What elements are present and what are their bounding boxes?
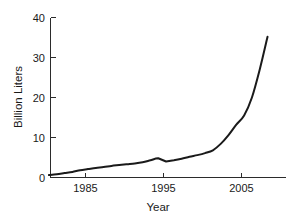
y-tick-labels: 0 10 20 30 40 bbox=[33, 12, 45, 184]
y-tick-marks bbox=[51, 18, 56, 178]
chart-figure: 0 10 20 30 40 1985 1995 2005 Year Billio… bbox=[0, 0, 294, 222]
x-tick-label-2005: 2005 bbox=[229, 182, 253, 194]
x-axis-title: Year bbox=[146, 201, 169, 213]
y-tick-label-30: 30 bbox=[33, 52, 45, 64]
line-chart: 0 10 20 30 40 1985 1995 2005 Year Billio… bbox=[0, 0, 294, 222]
x-tick-marks bbox=[86, 173, 242, 178]
x-tick-labels: 1985 1995 2005 bbox=[73, 182, 253, 194]
y-tick-label-10: 10 bbox=[33, 132, 45, 144]
x-tick-label-1995: 1995 bbox=[151, 182, 175, 194]
y-axis-title: Billion Liters bbox=[12, 66, 24, 128]
y-tick-label-40: 40 bbox=[33, 12, 45, 24]
y-tick-label-20: 20 bbox=[33, 92, 45, 104]
y-tick-label-0: 0 bbox=[39, 172, 45, 184]
data-series-line bbox=[49, 37, 268, 175]
x-tick-label-1985: 1985 bbox=[73, 182, 97, 194]
